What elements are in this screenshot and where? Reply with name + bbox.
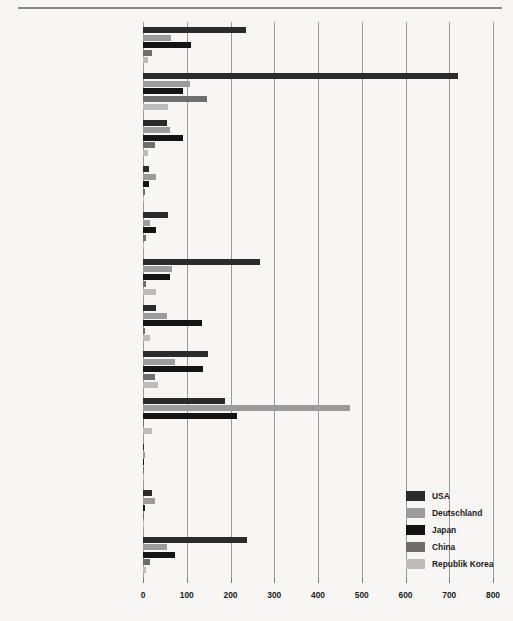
bar bbox=[143, 552, 175, 558]
bar-group: Erkennungssysteme/Diagnose bbox=[143, 120, 493, 156]
x-tick bbox=[231, 578, 232, 583]
bar bbox=[143, 537, 247, 543]
bar bbox=[143, 366, 203, 372]
legend-item[interactable]: Deutschland bbox=[406, 504, 510, 521]
bar bbox=[143, 266, 172, 272]
legend-item[interactable]: Japan bbox=[406, 521, 510, 538]
legend-label: China bbox=[432, 542, 455, 552]
bar bbox=[143, 174, 156, 180]
bar bbox=[143, 142, 155, 148]
x-tick-label: 400 bbox=[311, 590, 325, 600]
x-tick bbox=[143, 578, 144, 583]
legend-item[interactable]: USA bbox=[406, 487, 510, 504]
bar bbox=[143, 320, 202, 326]
bar bbox=[143, 73, 458, 79]
bar-group: Computer bbox=[143, 73, 493, 109]
bar bbox=[143, 467, 144, 473]
bar bbox=[143, 181, 149, 187]
x-tick-label: 800 bbox=[486, 590, 500, 600]
bar bbox=[143, 150, 148, 156]
bar bbox=[143, 452, 145, 458]
bar bbox=[143, 398, 225, 404]
x-tick bbox=[318, 578, 319, 583]
x-tick-label: 100 bbox=[180, 590, 194, 600]
bar-group: Sprachanalyse/Synthese bbox=[143, 166, 493, 202]
x-tick bbox=[362, 578, 363, 583]
x-tick-label: 300 bbox=[267, 590, 281, 600]
legend-item[interactable]: Republik Korea bbox=[406, 555, 510, 572]
bar bbox=[143, 88, 183, 94]
bar bbox=[143, 35, 171, 41]
bar bbox=[143, 490, 152, 496]
bar bbox=[143, 521, 144, 527]
bar bbox=[143, 289, 156, 295]
x-tick-label: 500 bbox=[355, 590, 369, 600]
bar bbox=[143, 567, 146, 573]
bar bbox=[143, 505, 145, 511]
x-tick-label: 700 bbox=[442, 590, 456, 600]
bar bbox=[143, 544, 167, 550]
x-tick-label: 600 bbox=[399, 590, 413, 600]
x-tick-label: 200 bbox=[224, 590, 238, 600]
bar bbox=[143, 382, 158, 388]
horizontal-bar-chart: KerngebieteComputerErkennungssysteme/Dia… bbox=[0, 0, 513, 621]
bar bbox=[143, 189, 145, 195]
x-tick bbox=[187, 578, 188, 583]
bar bbox=[143, 274, 170, 280]
bar bbox=[143, 513, 144, 519]
chart-legend: USADeutschlandJapanChinaRepublik Korea bbox=[406, 487, 510, 572]
bar bbox=[143, 27, 246, 33]
bar bbox=[143, 374, 155, 380]
bar bbox=[143, 220, 150, 226]
bar bbox=[143, 259, 260, 265]
bar bbox=[143, 474, 144, 480]
bar bbox=[143, 42, 191, 48]
x-tick bbox=[449, 578, 450, 583]
bar bbox=[143, 196, 144, 202]
bar bbox=[143, 459, 144, 465]
bar-group: Medizintechnik bbox=[143, 259, 493, 295]
bar bbox=[143, 81, 190, 87]
bar bbox=[143, 335, 150, 341]
bar bbox=[143, 405, 350, 411]
bar bbox=[143, 212, 168, 218]
legend-swatch-icon bbox=[406, 508, 425, 518]
x-axis-ticks bbox=[143, 578, 493, 584]
x-tick bbox=[406, 578, 407, 583]
bar bbox=[143, 227, 156, 233]
bar bbox=[143, 120, 167, 126]
bar bbox=[143, 281, 146, 287]
bar bbox=[143, 305, 156, 311]
bar bbox=[143, 413, 237, 419]
bar bbox=[143, 313, 167, 319]
bar bbox=[143, 96, 207, 102]
bar bbox=[143, 127, 170, 133]
legend-swatch-icon bbox=[406, 559, 425, 569]
bar bbox=[143, 57, 148, 63]
legend-swatch-icon bbox=[406, 525, 425, 535]
bar bbox=[143, 328, 145, 334]
bar-group: Unterricht/Modelle bbox=[143, 444, 493, 480]
x-tick-label: 0 bbox=[141, 590, 146, 600]
x-tick bbox=[274, 578, 275, 583]
legend-swatch-icon bbox=[406, 491, 425, 501]
legend-label: Japan bbox=[432, 525, 456, 535]
bar-group: Kerngebiete bbox=[143, 27, 493, 63]
legend-label: Deutschland bbox=[432, 508, 482, 518]
bar bbox=[143, 135, 183, 141]
bar-group: Robotik bbox=[143, 305, 493, 341]
bar bbox=[143, 166, 149, 172]
bar-group: Verkehrs-/Fahrzeugtechnik bbox=[143, 398, 493, 434]
bar bbox=[143, 50, 152, 56]
bar bbox=[143, 420, 144, 426]
bar bbox=[143, 559, 150, 565]
bar bbox=[143, 351, 208, 357]
x-axis-labels: 0100200300400500600700800 bbox=[0, 590, 513, 604]
bar-group: Bildanalyse bbox=[143, 212, 493, 248]
legend-item[interactable]: China bbox=[406, 538, 510, 555]
bar bbox=[143, 428, 152, 434]
bar bbox=[143, 498, 155, 504]
bar bbox=[143, 444, 144, 450]
bar bbox=[143, 104, 168, 110]
bar bbox=[143, 235, 146, 241]
